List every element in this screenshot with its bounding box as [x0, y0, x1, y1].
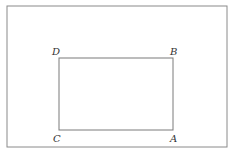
vertex-label-a: A — [169, 133, 177, 144]
vertex-label-b: B — [169, 46, 177, 57]
vertex-label-c: C — [53, 133, 61, 144]
vertex-label-d: D — [51, 46, 60, 57]
outer-frame — [7, 6, 227, 147]
rectangle-abcd — [59, 58, 173, 130]
diagram-canvas: D B C A — [0, 0, 234, 153]
